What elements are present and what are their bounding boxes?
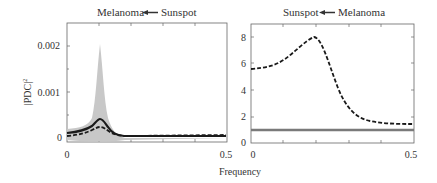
right-panel: Sunspot Melanoma 8 6 4 2 0 [241, 6, 417, 160]
right-ytick: 4 [241, 85, 246, 96]
right-ytick: 6 [241, 58, 246, 69]
left-xtick: 0 [65, 149, 70, 160]
right-ytick: 8 [241, 32, 246, 43]
left-panel: Melanoma Sunspot 0.002 0.001 0 |PDC|2 [22, 6, 232, 160]
right-axes-frame [251, 24, 414, 143]
left-ytick: 0 [57, 132, 62, 143]
right-title-target: Sunspot [283, 6, 318, 18]
left-ytick: 0.002 [38, 40, 61, 51]
left-xtick: 0.5 [220, 149, 233, 160]
left-ylabel: |PDC|2 [22, 79, 33, 105]
right-xtick: 0 [251, 149, 256, 160]
left-title-source: Sunspot [161, 6, 196, 18]
right-dashed-line [251, 37, 414, 124]
arrow-left-icon [319, 10, 335, 15]
arrow-left-icon [142, 10, 158, 15]
right-xtick: 0.5 [405, 149, 418, 160]
right-ytick: 2 [241, 111, 246, 122]
x-axis-label: Frequency [219, 166, 261, 177]
right-ytick: 0 [241, 137, 246, 148]
right-title-source: Melanoma [338, 6, 385, 18]
svg-text:|PDC|2: |PDC|2 [22, 79, 33, 105]
left-title-target: Melanoma [97, 6, 144, 18]
left-ytick: 0.001 [38, 87, 61, 98]
figure: Melanoma Sunspot 0.002 0.001 0 |PDC|2 [0, 0, 437, 183]
